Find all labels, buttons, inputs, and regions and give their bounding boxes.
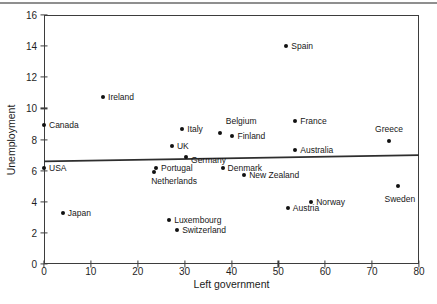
data-point-netherlands [152, 170, 156, 174]
point-label-germany: Germany [191, 155, 226, 165]
point-label-norway: Norway [316, 197, 345, 207]
data-point-usa [42, 166, 46, 170]
data-point-italy [180, 127, 184, 131]
data-point-new-zealand [242, 173, 246, 177]
y-tick-14 [41, 46, 48, 47]
point-label-netherlands: Netherlands [151, 176, 197, 186]
y-tick-label-12: 12 [10, 72, 37, 83]
point-label-sweden: Sweden [385, 194, 416, 204]
data-point-austria [286, 206, 290, 210]
x-tick-label-60: 60 [320, 265, 331, 276]
x-tick-label-80: 80 [413, 265, 424, 276]
y-tick-label-2: 2 [10, 227, 37, 238]
y-tick-4 [41, 201, 48, 202]
point-label-finland: Finland [237, 131, 265, 141]
point-label-new-zealand: New Zealand [249, 170, 299, 180]
data-point-spain [284, 44, 288, 48]
data-point-japan [61, 211, 65, 215]
x-tick-label-10: 10 [85, 265, 96, 276]
point-label-switzerland: Switzerland [182, 225, 226, 235]
x-tick-label-40: 40 [226, 265, 237, 276]
data-point-sweden [396, 184, 400, 188]
data-point-belgium [218, 131, 222, 135]
point-label-greece: Greece [375, 124, 403, 134]
point-label-australia: Australia [300, 145, 333, 155]
data-point-luxembourg [167, 218, 171, 222]
page-top-rule [0, 2, 437, 4]
data-point-australia [293, 148, 297, 152]
point-label-japan: Japan [68, 208, 91, 218]
point-label-canada: Canada [49, 120, 79, 130]
y-tick-label-16: 16 [10, 10, 37, 21]
x-tick-label-20: 20 [132, 265, 143, 276]
x-tick-label-0: 0 [41, 265, 47, 276]
y-tick-16 [41, 14, 48, 15]
point-label-portugal: Portugal [161, 163, 193, 173]
figure-page: 010203040506070800246810121416 CanadaUSA… [0, 0, 437, 304]
data-point-france [293, 119, 297, 123]
data-point-germany [184, 155, 188, 159]
plot-area [44, 15, 419, 264]
y-tick-2 [41, 232, 48, 233]
data-point-norway [309, 200, 313, 204]
data-point-greece [387, 139, 391, 143]
y-tick-10 [41, 108, 48, 109]
y-tick-6 [41, 170, 48, 171]
y-tick-0 [41, 263, 48, 264]
y-tick-8 [41, 139, 48, 140]
point-label-spain: Spain [291, 41, 313, 51]
data-point-ireland [101, 95, 105, 99]
y-tick-label-14: 14 [10, 41, 37, 52]
x-tick-label-30: 30 [179, 265, 190, 276]
y-tick-label-4: 4 [10, 196, 37, 207]
point-label-italy: Italy [187, 124, 203, 134]
data-point-canada [42, 123, 46, 127]
y-tick-label-0: 0 [10, 259, 37, 270]
y-axis-title: Unemployment [5, 105, 17, 176]
point-label-ireland: Ireland [108, 92, 134, 102]
data-point-switzerland [175, 228, 179, 232]
data-point-portugal [154, 166, 158, 170]
point-label-france: France [300, 116, 326, 126]
data-point-finland [230, 134, 234, 138]
x-axis-title: Left government [44, 278, 419, 290]
x-tick-label-70: 70 [367, 265, 378, 276]
point-label-belgium: Belgium [226, 116, 257, 126]
point-label-usa: USA [49, 163, 66, 173]
y-tick-12 [41, 77, 48, 78]
x-tick-label-50: 50 [273, 265, 284, 276]
data-point-uk [170, 144, 174, 148]
point-label-uk: UK [177, 141, 189, 151]
data-point-denmark [221, 166, 225, 170]
